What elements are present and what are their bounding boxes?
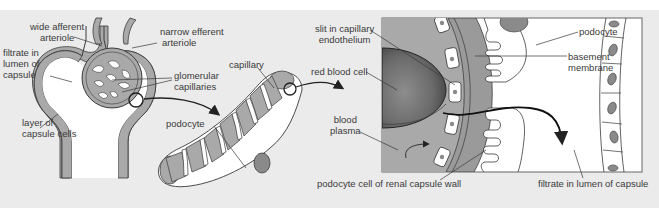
label-line: narrow efferent bbox=[160, 26, 224, 37]
label-line: glomerular bbox=[174, 70, 219, 81]
label-line: filtrate in bbox=[3, 47, 39, 58]
glomerulus bbox=[82, 48, 142, 108]
label-podocyte-panel3: podocyte bbox=[579, 26, 618, 37]
label-filtrate-in-lumen-of-capsule: filtrate in lumen of capsule bbox=[538, 178, 648, 189]
label-line: layer of bbox=[22, 117, 76, 128]
label-line: blood bbox=[330, 114, 361, 125]
label-line: arteriole bbox=[160, 37, 224, 48]
label-line: basement bbox=[568, 51, 613, 62]
label-line: capsule bbox=[3, 69, 39, 80]
label-line: arteriole bbox=[30, 32, 84, 43]
label-line: capsule cells bbox=[22, 128, 76, 139]
label-line: slit in capillary bbox=[315, 23, 374, 34]
label-line: podocyte cell of renal capsule wall bbox=[317, 178, 461, 189]
label-slit-in-capillary-endothelium: slit in capillary endothelium bbox=[315, 23, 374, 45]
label-red-blood-cell: red blood cell bbox=[311, 66, 368, 77]
filtration-detail-group bbox=[360, 12, 642, 180]
label-line: red blood cell bbox=[311, 66, 368, 77]
label-line: wide afferent bbox=[30, 21, 84, 32]
label-blood-plasma: blood plasma bbox=[330, 114, 361, 136]
podocyte-nucleus-detail bbox=[500, 12, 528, 32]
label-line: capillaries bbox=[174, 81, 219, 92]
label-wide-afferent-arteriole: wide afferent arteriole bbox=[30, 21, 84, 43]
label-capillary: capillary bbox=[229, 59, 264, 70]
arrow-1 bbox=[144, 98, 218, 114]
label-podocyte-panel2: podocyte bbox=[166, 118, 205, 129]
arrow-2 bbox=[296, 83, 342, 88]
label-layer-of-capsule-cells: layer of capsule cells bbox=[22, 117, 76, 139]
label-podocyte-cell-of-renal-capsule-wall: podocyte cell of renal capsule wall bbox=[317, 178, 461, 189]
label-basement-membrane: basement membrane bbox=[568, 51, 613, 73]
label-line: capillary bbox=[229, 59, 264, 70]
label-line: podocyte bbox=[579, 26, 618, 37]
label-filtrate-in-lumen: filtrate in lumen of capsule bbox=[3, 47, 39, 80]
label-line: endothelium bbox=[315, 34, 374, 45]
podocyte-nucleus bbox=[254, 153, 270, 173]
label-glomerular-capillaries: glomerular capillaries bbox=[174, 70, 219, 92]
label-line: filtrate in lumen of capsule bbox=[538, 178, 648, 189]
label-line: plasma bbox=[330, 125, 361, 136]
label-narrow-efferent-arteriole: narrow efferent arteriole bbox=[160, 26, 224, 48]
label-line: membrane bbox=[568, 62, 613, 73]
label-line: lumen of bbox=[3, 58, 39, 69]
label-line: podocyte bbox=[166, 118, 205, 129]
